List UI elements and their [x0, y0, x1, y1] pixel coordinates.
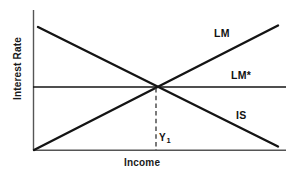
lm-star-curve-label: LM* — [231, 69, 251, 81]
is-curve-label: IS — [236, 109, 247, 121]
y1-subscript: 1 — [166, 136, 170, 145]
equilibrium-income-label: Y1 — [159, 132, 170, 143]
x-axis-label: Income — [124, 157, 160, 168]
lm-curve-label: LM — [214, 27, 230, 39]
y1-base: Y — [159, 132, 166, 143]
plot-area — [0, 0, 300, 173]
islm-diagram: Interest Rate Income LM LM* IS Y1 — [0, 0, 300, 173]
y-axis-label: Interest Rate — [12, 33, 23, 105]
